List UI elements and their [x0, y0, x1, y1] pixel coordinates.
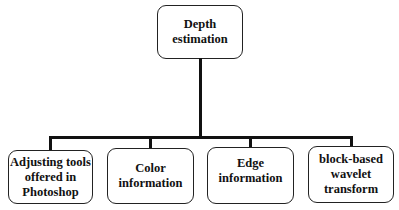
child4-line2: wavelet — [319, 167, 383, 182]
root-label-line1: Depth — [172, 17, 228, 32]
child3-line2: information — [219, 171, 283, 186]
root-label-line2: estimation — [172, 32, 228, 47]
child-node-edge-information: Edge information — [207, 147, 294, 204]
drop-connector-1 — [49, 136, 52, 151]
child-node-adjusting-tools: Adjusting tools offered in Photoshop — [8, 150, 93, 204]
horizontal-connector — [49, 136, 353, 139]
root-stem-connector — [199, 58, 202, 139]
root-node-depth-estimation: Depth estimation — [157, 5, 243, 59]
child2-line1: Color — [119, 161, 183, 176]
child2-line2: information — [119, 176, 183, 191]
child1-line2: offered in — [10, 170, 91, 185]
child4-line1: block-based — [319, 152, 383, 167]
child1-line3: Photoshop — [10, 185, 91, 200]
child1-line1: Adjusting tools — [10, 155, 91, 170]
child3-line1: Edge — [219, 156, 283, 171]
child-node-color-information: Color information — [107, 148, 194, 204]
child-node-block-based-wavelet: block-based wavelet transform — [308, 146, 394, 203]
child4-line3: transform — [319, 182, 383, 197]
